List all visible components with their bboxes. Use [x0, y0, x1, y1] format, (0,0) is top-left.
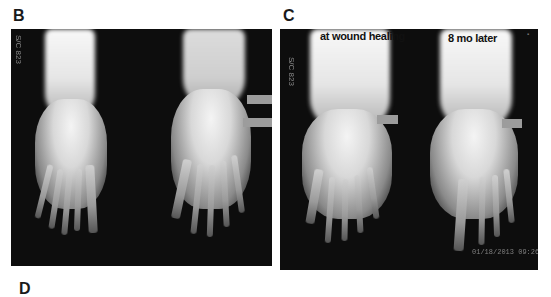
arrow-marker-wound-healing	[377, 115, 398, 124]
caption-at-wound-healing: at wound healing	[320, 30, 405, 42]
panel-label-c: C	[283, 8, 295, 24]
panel-label-b: B	[13, 8, 25, 24]
caption-8-mo-later: 8 mo later	[448, 32, 497, 44]
panel-b-side-text: S/C 823	[14, 35, 23, 64]
arrow-marker-8-mo-later	[502, 119, 522, 128]
arrow-marker-1	[247, 95, 272, 104]
panel-c-side-text: S/C 823	[287, 57, 296, 86]
panel-c-xray: S/C 823 at wound healing 8 mo later ▪ 01…	[280, 29, 538, 270]
arrow-marker-2	[243, 118, 272, 127]
date-stamp: 01/18/2013 09:26	[472, 248, 538, 256]
corner-mark: ▪	[527, 31, 529, 37]
panel-b-xray: S/C 823	[11, 29, 272, 266]
panel-label-d: D	[19, 281, 31, 297]
